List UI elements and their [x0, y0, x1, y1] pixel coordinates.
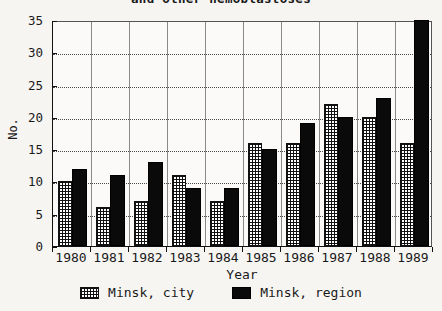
gridline-vertical	[91, 22, 92, 246]
x-axis-tick-label: 1983	[164, 250, 206, 265]
bar-city-1985	[248, 143, 263, 246]
x-axis-tick-label: 1988	[354, 250, 396, 265]
legend-label-city: Minsk, city	[108, 285, 194, 300]
y-axis-tick-mark	[52, 53, 57, 54]
legend-item-region: Minsk, region	[232, 285, 362, 300]
bar-region-1982	[148, 162, 163, 246]
bar-region-1986	[300, 123, 315, 246]
x-axis-tick-label: 1985	[240, 250, 282, 265]
y-axis-tick-label: 5	[0, 207, 43, 222]
x-axis-tick-labels: 1980198119821983198419851986198719881989	[52, 250, 432, 268]
y-axis-tick-label: 30	[0, 45, 43, 60]
y-axis-tick-mark	[52, 150, 57, 151]
bar-city-1980	[58, 181, 73, 246]
x-axis-tick-label: 1989	[392, 250, 434, 265]
gridline-vertical	[395, 22, 396, 246]
x-axis-tick-mark	[90, 247, 91, 252]
legend-item-city: Minsk, city	[80, 285, 194, 300]
x-axis-tick-mark	[52, 247, 53, 252]
bar-city-1986	[286, 143, 301, 246]
y-axis-tick-mark	[52, 86, 57, 87]
y-axis-tick-mark	[52, 182, 57, 183]
y-axis-tick-mark	[52, 21, 57, 22]
bar-region-1987	[338, 117, 353, 246]
bar-region-1984	[224, 188, 239, 246]
x-axis-tick-mark	[128, 247, 129, 252]
x-axis-tick-mark	[204, 247, 205, 252]
bar-region-1989	[414, 20, 429, 246]
x-axis-tick-mark	[394, 247, 395, 252]
gridline-vertical	[357, 22, 358, 246]
x-axis-tick-mark	[318, 247, 319, 252]
x-axis-tick-mark	[280, 247, 281, 252]
gridline-horizontal	[53, 54, 431, 55]
gridline-vertical	[129, 22, 130, 246]
x-axis-tick-label: 1984	[202, 250, 244, 265]
y-axis-tick-label: 0	[0, 239, 43, 254]
bar-city-1982	[134, 201, 149, 246]
legend-label-region: Minsk, region	[260, 285, 362, 300]
y-axis-tick-mark	[52, 118, 57, 119]
gridline-vertical	[205, 22, 206, 246]
plot-frame	[52, 21, 432, 247]
x-axis-tick-label: 1987	[316, 250, 358, 265]
gridline-vertical	[167, 22, 168, 246]
x-axis-tick-label: 1981	[88, 250, 130, 265]
y-axis-tick-label: 35	[0, 13, 43, 28]
chart-title: and other hemoblastoses	[0, 0, 442, 6]
x-axis-tick-mark	[432, 247, 433, 252]
bar-city-1983	[172, 175, 187, 246]
gridline-vertical	[319, 22, 320, 246]
y-axis-tick-label: 20	[0, 110, 43, 125]
y-axis-tick-label: 15	[0, 142, 43, 157]
bar-city-1987	[324, 104, 339, 246]
bar-region-1985	[262, 149, 277, 246]
gridline-vertical	[243, 22, 244, 246]
chart-legend: Minsk, city Minsk, region	[0, 285, 442, 300]
bar-city-1981	[96, 207, 111, 246]
bar-region-1981	[110, 175, 125, 246]
y-axis-tick-mark	[52, 215, 57, 216]
x-axis-tick-mark	[242, 247, 243, 252]
bar-city-1989	[400, 143, 415, 246]
bar-region-1988	[376, 98, 391, 247]
x-axis-tick-label: 1986	[278, 250, 320, 265]
x-axis-tick-mark	[166, 247, 167, 252]
legend-swatch-region-icon	[232, 287, 251, 299]
bar-city-1988	[362, 117, 377, 246]
legend-swatch-city-icon	[80, 287, 99, 299]
y-axis-tick-label: 10	[0, 174, 43, 189]
gridline-horizontal	[53, 87, 431, 88]
x-axis-tick-mark	[356, 247, 357, 252]
gridline-vertical	[281, 22, 282, 246]
x-axis-tick-label: 1982	[126, 250, 168, 265]
bar-region-1983	[186, 188, 201, 246]
y-axis-tick-label: 25	[0, 78, 43, 93]
bar-city-1984	[210, 201, 225, 246]
x-axis-tick-label: 1980	[50, 250, 92, 265]
bar-region-1980	[72, 169, 87, 246]
x-axis-label: Year	[52, 267, 432, 282]
